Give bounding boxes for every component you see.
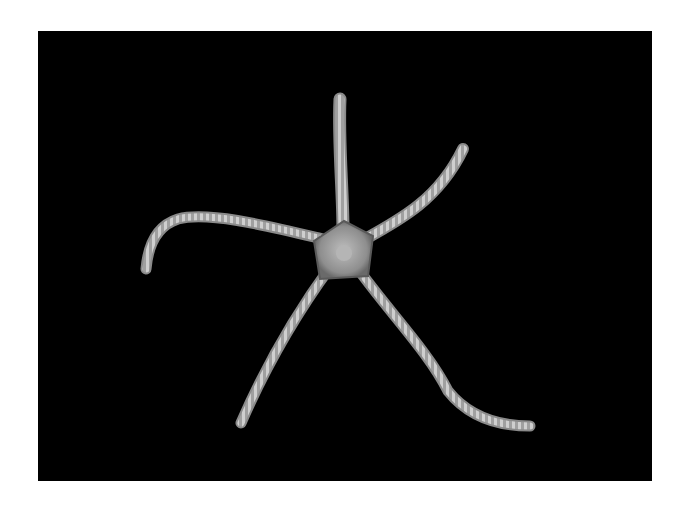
brittle-star-image bbox=[38, 31, 652, 481]
photo-frame bbox=[38, 31, 652, 481]
arm-left bbox=[146, 217, 323, 269]
arm-bottom-right bbox=[356, 266, 530, 426]
arm-right bbox=[358, 149, 463, 243]
central-disc bbox=[314, 221, 373, 279]
arm-top bbox=[340, 99, 343, 231]
arm-bottom-left bbox=[241, 266, 331, 423]
